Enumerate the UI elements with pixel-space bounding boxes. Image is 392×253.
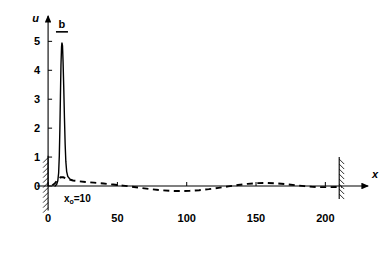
hatch-mark	[43, 203, 48, 208]
y-tick-label: 1	[34, 151, 40, 163]
hatch-mark	[339, 169, 344, 174]
y-axis-ticks: 012345	[34, 35, 52, 192]
figure-container: 050100150200 012345 x u bxo=10	[0, 0, 392, 253]
hatch-mark	[339, 194, 344, 199]
hatch-mark	[339, 159, 344, 164]
axes-group	[37, 16, 368, 186]
hatch-mark	[339, 179, 344, 184]
y-tick-label: 5	[34, 35, 40, 47]
chart-svg: 050100150200 012345 x u bxo=10	[0, 0, 392, 253]
y-tick-label: 0	[34, 180, 40, 192]
hatch-mark	[339, 164, 344, 169]
x-axis-label: x	[371, 168, 379, 180]
boundary-walls	[43, 156, 344, 213]
source-position-label: xo=10	[64, 193, 91, 206]
hatch-mark	[43, 193, 48, 198]
dashed-perturbation-curve	[52, 177, 342, 191]
y-tick-label: 4	[34, 64, 41, 76]
hatch-mark	[43, 168, 48, 173]
x-tick-label: 100	[178, 212, 196, 224]
hatch-mark	[43, 198, 48, 203]
hatch-mark	[43, 188, 48, 193]
y-axis-label: u	[32, 12, 39, 24]
hatch-mark	[43, 158, 48, 163]
peak-label: b	[59, 18, 66, 30]
hatch-mark	[43, 178, 48, 183]
hatch-mark	[339, 189, 344, 194]
y-tick-label: 2	[34, 122, 40, 134]
x-tick-label: 150	[247, 212, 265, 224]
x-tick-label: 50	[111, 212, 123, 224]
hatch-mark	[43, 183, 48, 188]
solid-peak-curve	[55, 43, 72, 186]
hatch-mark	[43, 173, 48, 178]
y-tick-label: 3	[34, 93, 40, 105]
x-tick-label: 0	[45, 212, 51, 224]
hatch-mark	[43, 163, 48, 168]
hatch-mark	[339, 174, 344, 179]
x-tick-label: 200	[316, 212, 334, 224]
